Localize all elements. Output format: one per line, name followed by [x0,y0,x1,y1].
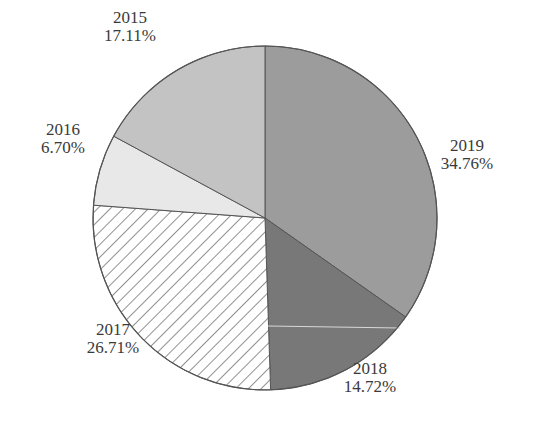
label-2016: 2016 6.70% [23,121,103,157]
label-2018-year: 2018 [330,360,410,378]
label-2019-percent: 34.76% [427,155,507,173]
label-2017-year: 2017 [73,321,153,339]
label-2016-percent: 6.70% [23,139,103,157]
slice-2017 [93,205,271,390]
label-2017: 2017 26.71% [73,321,153,357]
label-2015-percent: 17.11% [90,27,170,45]
label-2018: 2018 14.72% [330,360,410,396]
label-2019-year: 2019 [427,137,507,155]
label-2015: 2015 17.11% [90,9,170,45]
label-2018-percent: 14.72% [330,378,410,396]
pie-chart-svg [0,0,534,439]
label-2017-percent: 26.71% [73,339,153,357]
label-2016-year: 2016 [23,121,103,139]
label-2015-year: 2015 [90,9,170,27]
pie-chart: 2019 34.76% 2018 14.72% 2017 26.71% 2016… [0,0,534,439]
label-2019: 2019 34.76% [427,137,507,173]
